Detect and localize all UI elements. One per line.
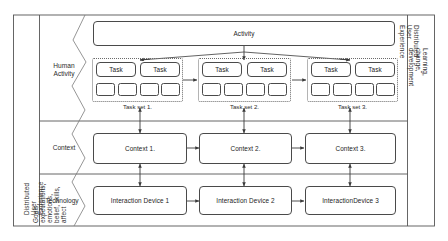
activity-node[interactable]: Activity [93,21,395,46]
task-set-3-subtask-2[interactable] [333,83,352,96]
row-label-context-line1: Context [42,144,86,152]
task-set-2-subtask-4[interactable] [268,83,287,96]
device-node-1[interactable]: Interaction Device 1 [93,186,187,215]
row-label-technology: Technology [40,197,84,205]
task-set-1-task-2[interactable]: Task [140,62,180,77]
task-set-3-task-1[interactable]: Task [311,62,351,77]
context-node-2-label: Context 2. [230,145,260,152]
context-node-1[interactable]: Context 1. [93,133,187,164]
right-side-label-line2: Learning, change, development [408,48,429,86]
context-node-3-label: Context 3. [335,145,365,152]
zigzag-divider [72,15,86,226]
left-side-label-group: Distributed User Experience Goals, expec… [13,15,39,226]
row-label-context: Context [42,144,86,152]
row-label-technology-line1: Technology [40,197,84,205]
task-set-1-task-2-label: Task [153,66,167,73]
task-set-1-subtask-1[interactable] [96,83,115,96]
task-set-2-subtask-2[interactable] [224,83,243,96]
row-label-human-activity-line1: Human [42,62,86,70]
device-node-2[interactable]: Interaction Device 2 [199,186,292,215]
task-set-1-caption: Task set 1. [92,103,183,110]
task-set-2-task-1-label: Task [215,66,229,73]
task-set-1-task-1[interactable]: Task [96,62,136,77]
task-set-3-subtask-1[interactable] [311,83,330,96]
task-set-1-subtask-2[interactable] [118,83,137,96]
row-label-human-activity: Human Activity [42,62,86,79]
task-set-2-caption: Task set 2. [198,103,291,110]
task-set-2-task-1[interactable]: Task [202,62,242,77]
task-set-2-subtask-3[interactable] [246,83,265,96]
device-node-2-label: Interaction Device 2 [216,197,274,204]
context-node-2[interactable]: Context 2. [199,133,292,164]
row-label-human-activity-line2: Activity [42,70,86,78]
device-node-3-label: InteractionDevice 3 [322,197,379,204]
context-node-3[interactable]: Context 3. [305,133,396,164]
diagram-canvas: Distributed User Experience Goals, expec… [0,0,448,241]
task-set-3-task-2-label: Task [368,66,382,73]
task-set-1-subtask-3[interactable] [140,83,159,96]
task-set-2-task-2[interactable]: Task [247,62,287,77]
activity-node-label: Activity [233,30,254,37]
task-set-3-task-1-label: Task [324,66,338,73]
task-set-2-subtask-1[interactable] [202,83,221,96]
task-set-1-task-1-label: Task [109,66,123,73]
right-side-label-group: Distributed User Experience Learning, ch… [408,15,434,226]
device-node-3[interactable]: InteractionDevice 3 [305,186,396,215]
task-set-3-subtask-3[interactable] [355,83,374,96]
context-node-1-label: Context 1. [125,145,155,152]
task-set-3-task-2[interactable]: Task [355,62,395,77]
task-set-2-task-2-label: Task [260,66,274,73]
task-set-3-subtask-4[interactable] [376,83,395,96]
task-set-1-subtask-4[interactable] [161,83,180,96]
task-set-3-caption: Task set 3. [307,103,398,110]
device-node-1-label: Interaction Device 1 [111,197,169,204]
